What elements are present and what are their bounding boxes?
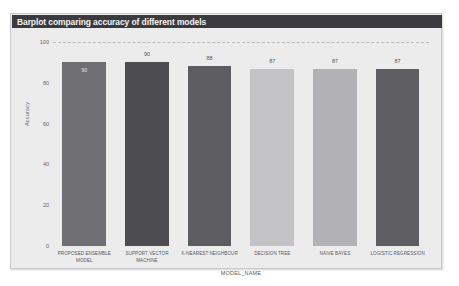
y-axis-tick: 0 — [46, 243, 49, 249]
y-axis-tick: 100 — [40, 39, 49, 45]
bar[interactable]: 88 — [188, 66, 232, 246]
bar-value-label: 90 — [125, 51, 169, 57]
plot-area: 909088878787 — [53, 42, 429, 246]
y-axis-label: Accuracy — [24, 102, 30, 126]
y-axis-tick: 60 — [43, 121, 49, 127]
y-axis-tick: 40 — [43, 161, 49, 167]
y-axis-ticks: 020406080100 — [33, 42, 49, 246]
bar-slot: 90 — [116, 42, 178, 246]
x-axis-tick-label: SUPPORT VECTOR MACHINE — [116, 250, 178, 264]
chart-title: Barplot comparing accuracy of different … — [12, 17, 206, 27]
bar[interactable]: 87 — [376, 69, 420, 246]
x-axis-tick-label: PROPOSED ENSEMBLE MODEL — [53, 250, 115, 264]
x-axis-tick-label: NAIVE BAYES — [304, 250, 366, 264]
bar-value-label: 87 — [250, 58, 294, 64]
bar-value-label: 88 — [188, 55, 232, 61]
chart-figure: Barplot comparing accuracy of different … — [10, 13, 442, 269]
bar[interactable]: 87 — [313, 69, 357, 246]
bar-series: 909088878787 — [53, 42, 429, 246]
y-axis-tick: 80 — [43, 80, 49, 86]
bar-slot: 87 — [304, 42, 366, 246]
bar-value-label: 87 — [313, 58, 357, 64]
x-axis-label: MODEL_NAME — [53, 270, 429, 276]
y-axis-tick: 20 — [43, 202, 49, 208]
x-axis-tick-label: DECISION TREE — [241, 250, 303, 264]
bar-value-label: 90 — [62, 67, 106, 73]
chart-title-bar: Barplot comparing accuracy of different … — [12, 15, 442, 28]
bar-slot: 87 — [366, 42, 428, 246]
bar[interactable]: 90 — [125, 62, 169, 246]
x-axis-tick-label: K-NEAREST NEIGHBOUR — [178, 250, 240, 264]
x-axis-tick-labels: PROPOSED ENSEMBLE MODELSUPPORT VECTOR MA… — [53, 250, 429, 264]
bar[interactable]: 90 — [62, 62, 106, 246]
bar-slot: 87 — [241, 42, 303, 246]
bar[interactable]: 87 — [250, 69, 294, 246]
bar-slot: 90 — [53, 42, 115, 246]
bar-slot: 88 — [178, 42, 240, 246]
bar-value-label: 87 — [376, 58, 420, 64]
x-axis-tick-label: LOGISTIC REGRESSION — [366, 250, 428, 264]
